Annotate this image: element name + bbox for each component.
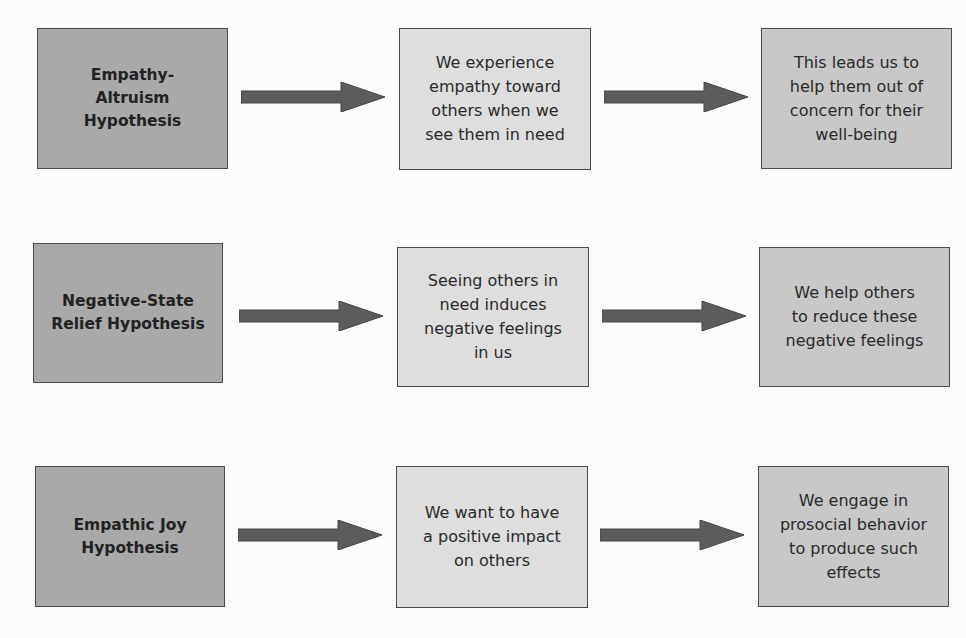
empathic-joy-outcome-box: We engage in prosocial behavior to produ… — [758, 466, 949, 607]
arrow-right-icon — [238, 520, 382, 550]
cause-text: Seeing others in need induces negative f… — [424, 269, 562, 365]
arrow-right-icon — [241, 82, 385, 112]
cause-text: We want to have a positive impact on oth… — [423, 501, 561, 573]
negative-state-relief-hypothesis-box: Negative-State Relief Hypothesis — [33, 243, 223, 383]
cause-text: We experience empathy toward others when… — [425, 51, 565, 147]
arrow-right-icon — [239, 301, 383, 331]
hypothesis-label: Empathy- Altruism Hypothesis — [84, 64, 182, 133]
empathic-joy-hypothesis-box: Empathic Joy Hypothesis — [35, 466, 225, 607]
arrow-right-icon — [602, 301, 746, 331]
arrow-right-icon — [604, 82, 748, 112]
empathic-joy-cause-box: We want to have a positive impact on oth… — [396, 466, 588, 608]
empathy-altruism-cause-box: We experience empathy toward others when… — [399, 28, 591, 170]
hypothesis-label: Empathic Joy Hypothesis — [73, 514, 186, 560]
empathy-altruism-hypothesis-box: Empathy- Altruism Hypothesis — [37, 28, 228, 169]
arrow-right-icon — [600, 520, 744, 550]
negative-state-relief-outcome-box: We help others to reduce these negative … — [759, 247, 950, 387]
empathy-altruism-outcome-box: This leads us to help them out of concer… — [761, 28, 952, 169]
outcome-text: We engage in prosocial behavior to produ… — [780, 489, 927, 585]
outcome-text: We help others to reduce these negative … — [786, 281, 924, 353]
negative-state-relief-cause-box: Seeing others in need induces negative f… — [397, 247, 589, 387]
hypothesis-label: Negative-State Relief Hypothesis — [51, 290, 204, 336]
outcome-text: This leads us to help them out of concer… — [790, 51, 923, 147]
